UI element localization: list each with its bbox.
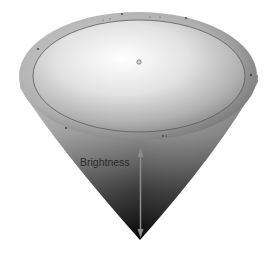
center-marker-icon: [137, 60, 141, 64]
brightness-cone-diagram: Brightness: [0, 0, 275, 253]
brightness-label: Brightness: [80, 156, 130, 168]
cone-top-face: [33, 20, 245, 132]
